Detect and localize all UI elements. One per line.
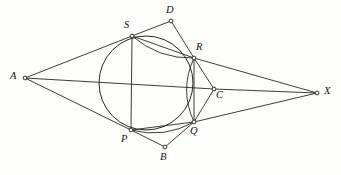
vertex-D xyxy=(169,19,173,23)
segment-C-X xyxy=(214,89,317,93)
point-label-S: S xyxy=(124,20,129,31)
point-label-R: R xyxy=(196,42,202,53)
segment-S-P xyxy=(131,36,132,130)
segments-group xyxy=(25,21,317,147)
segment-A-P xyxy=(25,78,131,130)
point-label-X: X xyxy=(324,86,330,97)
point-label-B: B xyxy=(160,152,166,163)
vertex-X xyxy=(315,91,319,95)
vertex-R xyxy=(192,56,196,60)
point-label-P: P xyxy=(121,134,127,145)
segment-D-R xyxy=(171,21,194,58)
point-label-A: A xyxy=(10,71,16,82)
point-label-C: C xyxy=(216,90,223,101)
geometry-figure: ASDRCXQBP xyxy=(0,0,341,175)
segment-Q-X xyxy=(194,93,317,122)
vertices-group xyxy=(23,19,319,149)
vertex-Q xyxy=(192,120,196,124)
vertex-S xyxy=(130,34,134,38)
point-label-Q: Q xyxy=(190,126,198,137)
vertex-P xyxy=(129,128,133,132)
vertex-B xyxy=(163,145,167,149)
segment-A-S xyxy=(25,36,132,78)
segment-P-Q xyxy=(131,122,194,130)
vertex-A xyxy=(23,76,27,80)
point-label-D: D xyxy=(166,5,174,16)
segment-A-C xyxy=(25,78,214,89)
geometry-canvas xyxy=(0,0,341,175)
segment-Q-C xyxy=(194,89,214,122)
segment-S-D xyxy=(132,21,171,36)
